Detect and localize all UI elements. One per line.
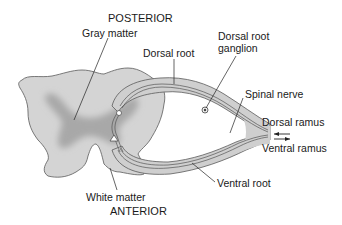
ventral-root-label: Ventral root <box>217 177 271 189</box>
anterior-label: ANTERIOR <box>110 205 167 217</box>
spinal-cord-diagram <box>0 0 342 225</box>
synapse-icon <box>117 111 122 116</box>
dorsal-root-label: Dorsal root <box>143 47 194 59</box>
dorsal-root-ganglion-label-line1: Dorsal root <box>218 30 269 42</box>
dorsal-root-ganglion-label-line2: ganglion <box>218 42 258 54</box>
white-matter-label: White matter <box>86 191 146 203</box>
spinal-nerve-label: Spinal nerve <box>245 88 303 100</box>
dorsal-ramus-label: Dorsal ramus <box>262 116 324 128</box>
gray-matter-label: Gray matter <box>82 27 137 39</box>
ventral-ramus-label: Ventral ramus <box>262 142 327 154</box>
posterior-label: POSTERIOR <box>108 12 173 24</box>
